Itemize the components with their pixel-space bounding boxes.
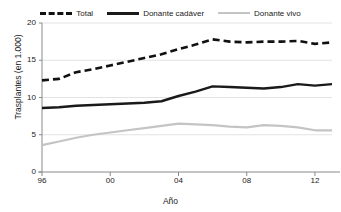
tick-marks [39, 23, 315, 176]
plot-area [0, 0, 341, 212]
gridlines [42, 23, 332, 135]
series-lines [42, 39, 332, 145]
series-line-donante-cad-ver [42, 84, 332, 108]
transplants-line-chart: Total Donante cadáver Donante vivo Trasp… [0, 0, 341, 212]
